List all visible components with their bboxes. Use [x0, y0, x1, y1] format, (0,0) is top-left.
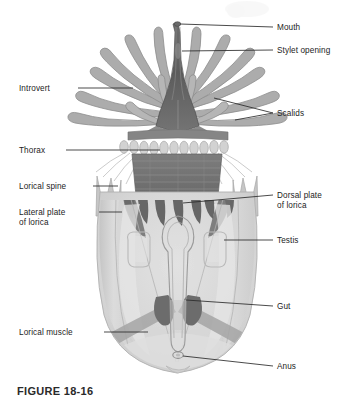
- label-lateral-plate-line2: of lorica: [19, 218, 49, 227]
- label-scalids: Scalids: [277, 109, 304, 118]
- label-introvert: Introvert: [19, 84, 51, 93]
- lorica-body: [97, 189, 257, 373]
- label-mouth: Mouth: [277, 23, 301, 32]
- label-lorical-muscle: Lorical muscle: [19, 328, 73, 337]
- thorax-region: [132, 154, 222, 196]
- label-anus: Anus: [277, 362, 296, 371]
- oval-plate-row: [120, 140, 229, 154]
- figure-caption: FIGURE 18-16: [17, 385, 93, 396]
- mouth-opening-mark: [174, 22, 180, 27]
- anatomy-illustration: Mouth Stylet opening Scalids Dorsal plat…: [0, 0, 355, 396]
- label-dorsal-plate: Dorsal plate: [277, 191, 322, 200]
- label-testis: Testis: [277, 236, 299, 245]
- label-stylet-opening: Stylet opening: [277, 46, 331, 55]
- label-thorax: Thorax: [19, 146, 45, 155]
- label-lateral-plate: Lateral plate: [19, 208, 66, 217]
- stylet-opening-mark: [175, 43, 181, 59]
- figure-root: Mouth Stylet opening Scalids Dorsal plat…: [0, 0, 355, 396]
- label-gut: Gut: [277, 302, 291, 311]
- label-dorsal-plate-line2: of lorica: [277, 201, 307, 210]
- label-lorical-spine: Lorical spine: [19, 182, 67, 191]
